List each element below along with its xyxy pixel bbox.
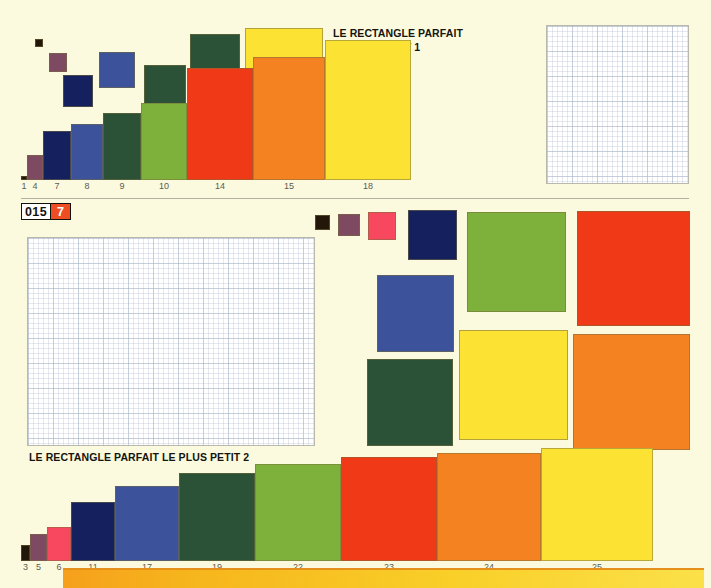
tick-label-9: 9 <box>119 181 124 191</box>
bar-10 <box>141 103 187 180</box>
tick-label-5: 5 <box>36 562 41 572</box>
square-blue <box>377 275 454 352</box>
bar-25 <box>541 448 653 561</box>
section-bottom: LE RECTANGLE PARFAIT LE PLUS PETIT 2 356… <box>0 205 711 588</box>
right-paper-margin <box>704 0 711 588</box>
tick-label-1: 1 <box>21 181 26 191</box>
square-green <box>467 212 566 312</box>
tick-label-7: 7 <box>54 181 59 191</box>
bar-11 <box>71 502 115 561</box>
section-top-title-line1: LE RECTANGLE PARFAIT <box>333 26 463 40</box>
section-divider <box>21 198 689 199</box>
poster-page: LE RECTANGLE PARFAIT LE PLUS PETIT 1 147… <box>0 0 711 588</box>
square-darkgreen <box>367 359 453 446</box>
square-orange <box>573 334 690 450</box>
tick-label-14: 14 <box>215 181 225 191</box>
square-pink <box>368 212 396 240</box>
tick-label-8: 8 <box>84 181 89 191</box>
bar-22 <box>255 464 341 561</box>
section-top: LE RECTANGLE PARFAIT LE PLUS PETIT 1 147… <box>0 0 711 195</box>
square-black <box>315 215 330 230</box>
tick-label-18: 18 <box>363 181 373 191</box>
bar-4 <box>27 155 43 180</box>
bar-24 <box>437 453 541 561</box>
bar-9 <box>103 113 141 180</box>
top-bar-chart <box>21 40 691 180</box>
bar-15 <box>253 57 325 180</box>
top-axis-ticks: 1478910141518 <box>21 181 691 195</box>
bar-5 <box>30 534 47 561</box>
bar-6 <box>47 527 71 561</box>
tick-label-10: 10 <box>159 181 169 191</box>
bar-18 <box>325 40 411 180</box>
tick-label-6: 6 <box>56 562 61 572</box>
bar-23 <box>341 457 437 561</box>
square-navy <box>408 210 457 260</box>
square-red <box>577 211 690 326</box>
bar-8 <box>71 124 103 180</box>
tick-label-4: 4 <box>32 181 37 191</box>
bar-19 <box>179 473 255 561</box>
bar-3 <box>21 545 30 561</box>
square-yellow <box>459 330 568 440</box>
bar-14 <box>187 68 253 180</box>
tick-label-3: 3 <box>23 562 28 572</box>
square-gridpaper <box>27 237 315 446</box>
bar-7 <box>43 131 71 180</box>
bottom-accent-bar <box>63 570 711 588</box>
bottom-bar-chart <box>21 448 691 561</box>
square-mauve <box>338 214 360 236</box>
bar-17 <box>115 486 179 561</box>
tick-label-15: 15 <box>284 181 294 191</box>
